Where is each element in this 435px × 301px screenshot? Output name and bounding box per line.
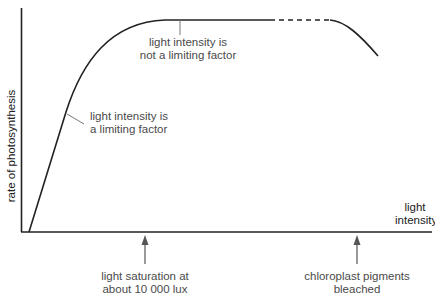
decline-curve <box>330 20 378 56</box>
annotation-saturation-line1: light saturation at <box>90 270 200 283</box>
x-axis-label-line2: intensity <box>395 214 435 227</box>
bleached-arrow-head <box>354 235 361 245</box>
annotation-saturation-line2: about 10 000 lux <box>90 283 200 296</box>
y-axis-label: rate of photosynthesis <box>5 83 17 209</box>
annotation-limiting: light intensity is a limiting factor <box>90 110 168 136</box>
annotation-bleached: chloroplast pigments bleached <box>297 270 417 296</box>
annotation-not-limiting: light intensity is not a limiting factor <box>128 36 248 62</box>
x-axis-label-line1: light <box>395 201 435 214</box>
annotation-not-limiting-line2: not a limiting factor <box>128 49 248 62</box>
annotation-limiting-line2: a limiting factor <box>90 123 168 136</box>
annotation-bleached-line1: chloroplast pigments <box>297 270 417 283</box>
annotation-bleached-line2: bleached <box>297 283 417 296</box>
x-axis-label: light intensity <box>395 201 435 227</box>
annotation-limiting-line1: light intensity is <box>90 110 168 123</box>
annotation-saturation: light saturation at about 10 000 lux <box>90 270 200 296</box>
annotation-not-limiting-line1: light intensity is <box>128 36 248 49</box>
saturation-arrow-head <box>142 235 149 245</box>
leader-limiting <box>67 114 84 124</box>
